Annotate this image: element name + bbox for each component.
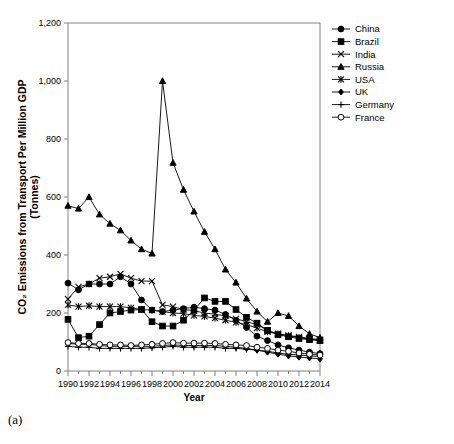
data-point-open-circle xyxy=(265,345,271,351)
data-point-filled-square xyxy=(86,333,92,339)
data-point-filled-triangle xyxy=(222,266,228,272)
data-point-filled-square xyxy=(170,323,176,329)
legend-item-germany: Germany xyxy=(332,99,394,110)
legend-item-russia: Russia xyxy=(332,61,385,72)
data-point-filled-circle xyxy=(338,26,344,32)
svg-text:2004: 2004 xyxy=(205,379,225,389)
svg-text:1996: 1996 xyxy=(121,379,141,389)
data-point-open-circle xyxy=(86,341,92,347)
data-point-open-circle xyxy=(65,340,71,346)
figure-caption: (a) xyxy=(8,412,22,428)
data-point-open-circle xyxy=(307,351,313,357)
svg-text:1990: 1990 xyxy=(58,379,78,389)
series-russia xyxy=(65,78,323,340)
data-point-open-circle xyxy=(233,342,239,348)
data-point-filled-triangle xyxy=(65,203,71,209)
data-point-open-circle xyxy=(254,344,260,350)
data-point-open-circle xyxy=(118,342,124,348)
y-axis-title-line2: (Tonnes) xyxy=(28,175,40,219)
data-point-open-circle xyxy=(160,341,166,347)
legend-label: USA xyxy=(355,74,375,85)
data-point-open-circle xyxy=(338,114,344,120)
data-point-filled-square xyxy=(65,317,71,323)
data-point-filled-triangle xyxy=(212,246,218,252)
legend-label: Germany xyxy=(355,99,394,110)
legend-item-usa: USA xyxy=(332,74,375,85)
data-point-filled-circle xyxy=(254,333,260,339)
line-chart: 02004006008001,0001,200 1990199219941996… xyxy=(0,0,454,444)
data-point-filled-triangle xyxy=(191,208,197,214)
data-point-star xyxy=(244,321,250,328)
data-point-open-circle xyxy=(191,340,197,346)
chart-legend: ChinaBrazilIndiaRussiaUSAUKGermanyFrance xyxy=(332,23,394,122)
data-point-open-circle xyxy=(296,350,302,356)
legend-label: India xyxy=(355,49,376,60)
data-point-open-circle xyxy=(317,352,323,358)
data-point-filled-triangle xyxy=(159,78,165,84)
data-point-filled-square xyxy=(202,295,208,301)
data-point-filled-triangle xyxy=(180,187,186,193)
data-point-filled-circle xyxy=(265,338,271,344)
svg-text:2000: 2000 xyxy=(163,379,183,389)
data-point-filled-triangle xyxy=(149,250,155,256)
legend-label: Brazil xyxy=(355,36,379,47)
svg-text:1998: 1998 xyxy=(142,379,162,389)
data-point-filled-triangle xyxy=(201,229,207,235)
data-point-open-circle xyxy=(170,340,176,346)
data-point-cross xyxy=(128,275,134,281)
data-point-open-circle xyxy=(139,342,145,348)
svg-text:2006: 2006 xyxy=(226,379,246,389)
data-point-filled-triangle xyxy=(306,331,312,337)
legend-label: Russia xyxy=(355,61,385,72)
svg-text:200: 200 xyxy=(46,308,61,318)
svg-text:2012: 2012 xyxy=(289,379,309,389)
legend-item-china: China xyxy=(332,23,381,34)
data-point-open-circle xyxy=(97,341,103,347)
data-point-filled-triangle xyxy=(275,310,281,316)
data-point-filled-circle xyxy=(128,281,134,287)
svg-text:0: 0 xyxy=(56,366,61,376)
data-point-filled-triangle xyxy=(96,211,102,217)
data-point-open-circle xyxy=(223,341,229,347)
svg-text:2010: 2010 xyxy=(268,379,288,389)
data-point-filled-circle xyxy=(65,280,71,286)
data-point-filled-triangle xyxy=(86,194,92,200)
data-point-filled-square xyxy=(181,317,187,323)
data-point-filled-square xyxy=(97,322,103,328)
data-point-open-circle xyxy=(212,341,218,347)
data-point-filled-triangle xyxy=(117,227,123,233)
figure-container: 02004006008001,0001,200 1990199219941996… xyxy=(0,0,454,444)
data-point-filled-circle xyxy=(107,281,113,287)
x-axis-title: Year xyxy=(183,392,204,403)
data-point-open-circle xyxy=(275,347,281,353)
svg-text:2008: 2008 xyxy=(247,379,267,389)
legend-item-france: France xyxy=(332,112,385,123)
data-point-filled-square xyxy=(160,323,166,329)
data-point-open-circle xyxy=(107,342,113,348)
svg-text:600: 600 xyxy=(46,192,61,202)
data-point-open-circle xyxy=(76,341,82,347)
data-point-filled-square xyxy=(149,319,155,325)
data-point-filled-triangle xyxy=(243,295,249,301)
x-axis-ticks: 1990199219941996199820002002200420062008… xyxy=(58,371,330,389)
data-point-open-circle xyxy=(286,348,292,354)
legend-label: China xyxy=(355,23,381,34)
svg-text:2002: 2002 xyxy=(184,379,204,389)
legend-label: UK xyxy=(355,86,369,97)
svg-text:1,200: 1,200 xyxy=(38,18,61,28)
svg-text:1,000: 1,000 xyxy=(38,76,61,86)
data-point-filled-square xyxy=(233,307,239,313)
svg-text:2014: 2014 xyxy=(310,379,330,389)
data-point-open-circle xyxy=(244,343,250,349)
data-point-small-diamond xyxy=(339,89,344,95)
data-point-filled-square xyxy=(212,299,218,305)
data-point-filled-square xyxy=(223,299,229,305)
legend-item-india: India xyxy=(332,49,376,60)
data-point-filled-circle xyxy=(97,281,103,287)
y-axis-ticks: 02004006008001,0001,200 xyxy=(38,18,68,376)
plot-frame xyxy=(68,23,320,371)
legend-item-uk: UK xyxy=(332,86,369,97)
data-point-filled-square xyxy=(107,310,113,316)
svg-text:800: 800 xyxy=(46,134,61,144)
y-axis-title-line1: CO₂ Emissions from Transport Per Million… xyxy=(16,79,28,314)
